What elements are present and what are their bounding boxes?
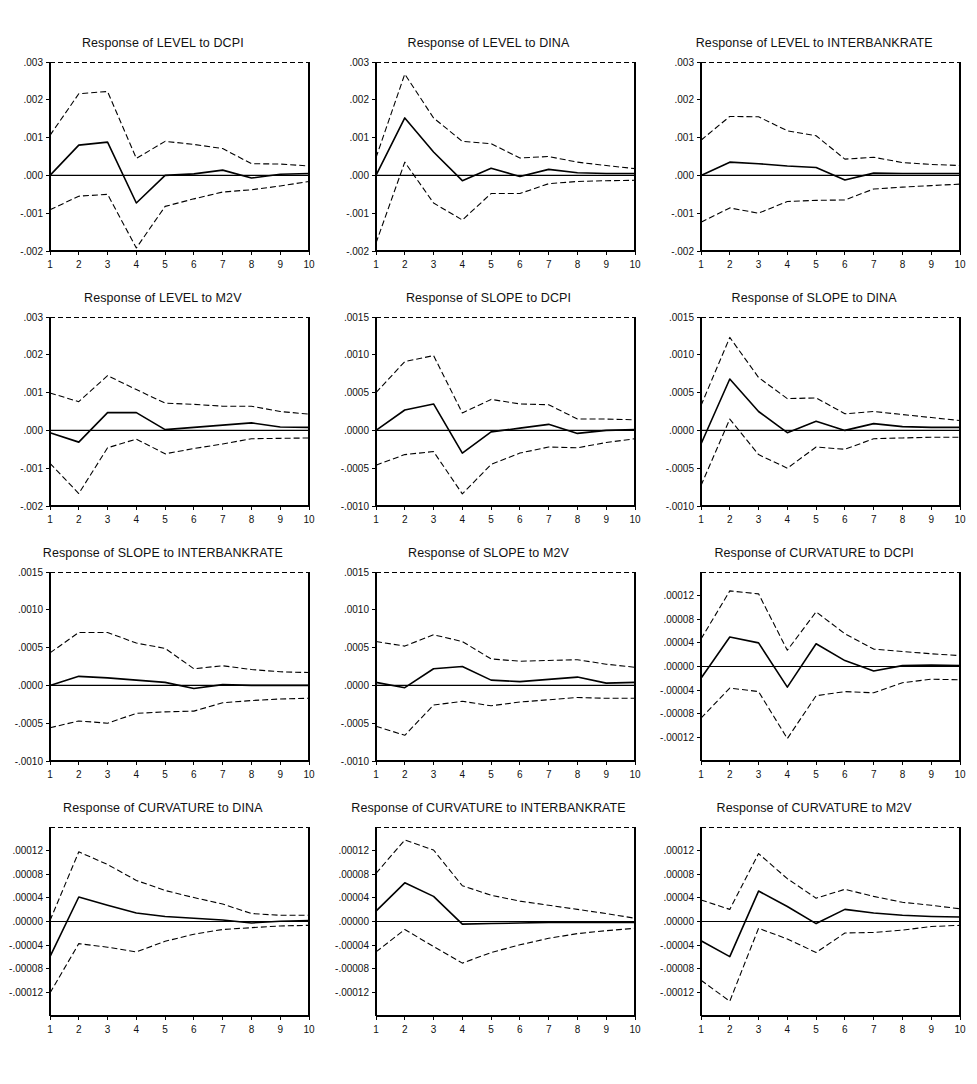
y-tick-label: -.00004 [660, 685, 694, 696]
series-upper_band [701, 591, 960, 656]
series-upper_band [50, 632, 309, 672]
plot-area: .00012.00008.00004.00000-.00004-.00008-.… [326, 819, 651, 1050]
x-tick-label: 1 [373, 769, 379, 780]
x-tick-label: 8 [574, 1024, 580, 1035]
plot-frame [376, 317, 635, 506]
x-tick-label: 10 [303, 1024, 315, 1035]
panel-title: Response of CURVATURE to M2V [651, 801, 977, 815]
y-tick-label: .001 [24, 387, 44, 398]
x-tick-label: 3 [756, 1024, 762, 1035]
x-tick-label: 1 [699, 259, 705, 270]
x-tick-label: 10 [955, 514, 967, 525]
plot-frame [376, 572, 635, 761]
y-tick-label: .001 [349, 132, 369, 143]
x-tick-label: 3 [105, 514, 111, 525]
x-tick-label: 9 [929, 259, 935, 270]
y-tick-label: .0010 [344, 349, 369, 360]
y-tick-label: -.0010 [15, 756, 44, 767]
y-tick-label: .00004 [664, 892, 695, 903]
x-tick-label: 7 [546, 769, 552, 780]
x-tick-label: 5 [488, 514, 494, 525]
series-lower_band [701, 419, 960, 486]
x-tick-label: 9 [277, 769, 283, 780]
x-tick-label: 3 [105, 1024, 111, 1035]
irf-panel: Response of SLOPE to DINA.0015.0010.0005… [651, 285, 977, 540]
y-tick-label: .003 [24, 57, 44, 68]
series-upper_band [50, 91, 309, 165]
x-tick-label: 2 [76, 1024, 82, 1035]
series-response [701, 637, 960, 687]
panel-title: Response of SLOPE to DCPI [326, 291, 652, 305]
y-tick-label: .00012 [12, 845, 43, 856]
y-tick-label: .00008 [12, 869, 43, 880]
x-tick-label: 1 [47, 769, 53, 780]
y-tick-label: .0010 [669, 349, 694, 360]
y-tick-label: .0000 [344, 425, 369, 436]
x-tick-label: 5 [488, 769, 494, 780]
plot-area: .0015.0010.0005.0000-.0005-.001012345678… [326, 309, 651, 540]
series-response [50, 676, 309, 688]
x-tick-label: 4 [785, 769, 791, 780]
y-tick-label: -.00004 [335, 940, 369, 951]
x-tick-label: 10 [629, 514, 641, 525]
plot-area: .00012.00008.00004.00000-.00004-.00008-.… [651, 819, 976, 1050]
x-tick-label: 7 [871, 514, 877, 525]
x-tick-label: 5 [162, 1024, 168, 1035]
panel-title: Response of SLOPE to DINA [651, 291, 977, 305]
x-tick-label: 8 [249, 769, 255, 780]
panel-title: Response of LEVEL to DINA [326, 36, 652, 50]
x-tick-label: 3 [430, 769, 436, 780]
series-lower_band [376, 928, 635, 963]
plot-area: .0015.0010.0005.0000-.0005-.001012345678… [651, 309, 976, 540]
y-tick-label: .00008 [664, 614, 695, 625]
x-tick-label: 10 [955, 259, 967, 270]
y-tick-label: .0000 [669, 425, 694, 436]
x-tick-label: 9 [929, 514, 935, 525]
x-tick-label: 2 [727, 259, 733, 270]
y-tick-label: -.00008 [660, 963, 694, 974]
x-tick-label: 6 [191, 514, 197, 525]
x-tick-label: 3 [756, 259, 762, 270]
y-tick-label: -.0005 [340, 463, 369, 474]
y-tick-label: -.002 [20, 501, 43, 512]
series-lower_band [50, 438, 309, 494]
y-tick-label: .000 [349, 170, 369, 181]
y-tick-label: .0010 [344, 604, 369, 615]
x-tick-label: 4 [134, 1024, 140, 1035]
y-tick-label: .002 [349, 94, 369, 105]
x-tick-label: 9 [603, 514, 609, 525]
x-tick-label: 1 [699, 514, 705, 525]
series-upper_band [376, 356, 635, 420]
x-tick-label: 4 [459, 1024, 465, 1035]
y-tick-label: .00008 [338, 869, 369, 880]
y-tick-label: -.001 [346, 208, 369, 219]
y-tick-label: -.00012 [335, 987, 369, 998]
x-tick-label: 9 [277, 514, 283, 525]
x-tick-label: 9 [277, 259, 283, 270]
irf-panel: Response of LEVEL to INTERBANKRATE.003.0… [651, 30, 977, 285]
y-tick-label: .0000 [344, 680, 369, 691]
series-upper_band [376, 635, 635, 668]
series-upper_band [376, 840, 635, 918]
plot-frame [50, 62, 309, 251]
series-upper_band [701, 337, 960, 420]
x-tick-label: 2 [727, 1024, 733, 1035]
irf-panel: Response of LEVEL to M2V.003.002.001.000… [0, 285, 326, 540]
plot-area: .0015.0010.0005.0000-.0005-.001012345678… [326, 564, 651, 795]
x-tick-label: 3 [430, 1024, 436, 1035]
panel-title: Response of CURVATURE to DCPI [651, 546, 977, 560]
x-tick-label: 8 [900, 259, 906, 270]
y-tick-label: .0000 [18, 680, 43, 691]
y-tick-label: .00000 [338, 916, 369, 927]
x-tick-label: 1 [373, 1024, 379, 1035]
x-tick-label: 2 [76, 514, 82, 525]
x-tick-label: 7 [546, 514, 552, 525]
y-tick-label: .00012 [338, 845, 369, 856]
x-tick-label: 9 [603, 259, 609, 270]
x-tick-label: 8 [574, 769, 580, 780]
plot-area: .003.002.001.000-.001-.00212345678910 [0, 309, 325, 540]
x-tick-label: 1 [699, 769, 705, 780]
x-tick-label: 7 [546, 1024, 552, 1035]
x-tick-label: 6 [191, 769, 197, 780]
y-tick-label: -.0010 [340, 501, 369, 512]
